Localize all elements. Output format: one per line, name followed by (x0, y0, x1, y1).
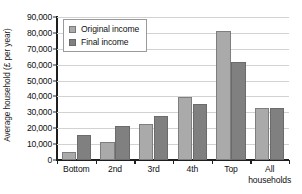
bar (255, 108, 270, 160)
bar (178, 97, 193, 160)
legend-swatch-final-income (69, 39, 76, 46)
chart-legend: Original income Final income (63, 19, 147, 52)
y-axis-tick-label: 30,000 (27, 107, 52, 117)
y-axis-tick-labels: 010,00020,00030,00040,00050,00060,00070,… (14, 11, 56, 166)
x-axis-tick-label: All households (248, 164, 291, 185)
y-axis-tick-label: 20,000 (27, 123, 52, 133)
legend-label-original-income: Original income (81, 24, 139, 34)
gridline (57, 81, 289, 82)
y-axis-tick-label: 50,000 (27, 76, 52, 86)
x-axis-tick-label: Top (224, 164, 238, 175)
bar (100, 142, 115, 160)
bar (231, 62, 246, 160)
y-axis-tick-label: 90,000 (27, 12, 52, 22)
gridline (57, 65, 289, 66)
legend-label-final-income: Final income (81, 37, 129, 47)
legend-item-final-income: Final income (69, 37, 139, 47)
bar (139, 124, 154, 160)
legend-item-original-income: Original income (69, 24, 139, 34)
bar (193, 104, 208, 160)
gridline (57, 96, 289, 97)
bar (77, 135, 92, 160)
y-axis-tick-label: 0 (47, 155, 52, 165)
bar (270, 108, 285, 160)
x-axis-tick-labels: Bottom2nd3rd4thTopAll households (57, 164, 289, 194)
y-axis-tick-label: 40,000 (27, 91, 52, 101)
y-axis-title-text: Average household (£ per year) (2, 28, 12, 142)
gridline (57, 17, 289, 18)
y-axis-tick-label: 70,000 (27, 44, 52, 54)
y-axis-tick-label: 80,000 (27, 28, 52, 38)
x-axis-tick-label: 4th (187, 164, 199, 175)
bar-chart: Average household (£ per year) 010,00020… (0, 0, 302, 194)
y-axis-tick-label: 60,000 (27, 60, 52, 70)
y-axis-title: Average household (£ per year) (0, 0, 14, 170)
x-axis-tick-label: 2nd (108, 164, 122, 175)
bar (154, 116, 169, 160)
bar (62, 152, 77, 160)
bar (216, 31, 231, 160)
legend-swatch-original-income (69, 26, 76, 33)
x-axis-tick-label: 3rd (148, 164, 160, 175)
x-axis-tick-label: Bottom (63, 164, 90, 175)
y-axis-tick-label: 10,000 (27, 139, 52, 149)
bar (115, 126, 130, 160)
